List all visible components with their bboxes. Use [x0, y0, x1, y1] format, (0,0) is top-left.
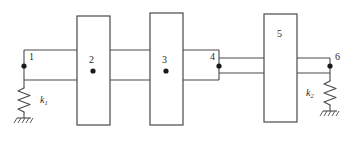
node-label-4: 4 [210, 52, 215, 62]
node-dot-6 [327, 63, 332, 68]
spring-label-k1: k1 [40, 95, 48, 106]
spring-label-k2-subscript: 2 [310, 92, 313, 99]
shaft-thick-left [24, 50, 219, 80]
shaft-disk-diagram [0, 0, 360, 141]
node-label-2: 2 [89, 55, 94, 65]
node-dot-3 [163, 68, 168, 73]
node-label-3: 3 [162, 55, 167, 65]
ground-symbol-left [14, 118, 33, 123]
node-dot-2 [90, 68, 95, 73]
spring-k1 [14, 80, 33, 123]
spring-k2 [320, 73, 339, 116]
node-label-1: 1 [29, 52, 34, 62]
node-dot-1 [21, 63, 26, 68]
spring-label-k2: k2 [306, 88, 314, 99]
node-label-6: 6 [335, 52, 340, 62]
spring-label-k1-subscript: 1 [44, 99, 47, 106]
node-label-5: 5 [277, 29, 282, 39]
ground-symbol-right [320, 111, 339, 116]
node-dot-4 [216, 63, 221, 68]
figure-canvas: 1 2 3 4 5 6 k1 k2 [0, 0, 360, 141]
